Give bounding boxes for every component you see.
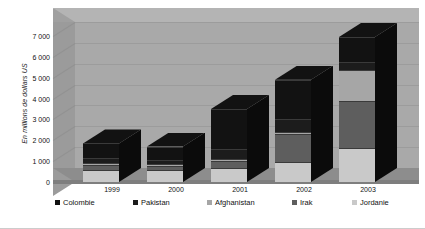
legend-item-jordanie[interactable]: Jordanie: [352, 199, 389, 207]
legend-swatch-icon: [207, 200, 212, 205]
y-axis-tick-0: 0: [14, 179, 50, 186]
legend-swatch-icon: [292, 200, 297, 205]
segment-Jordanie-2001: [211, 168, 247, 182]
segment-Jordanie-1999: [83, 170, 119, 183]
x-axis-tick-1999: 1999: [87, 186, 137, 193]
segment-Colombie-2001: [211, 109, 247, 149]
bar-2003: [339, 37, 375, 182]
bar-front-face: [147, 147, 183, 182]
y-axis-tick-7000: 7 000: [14, 33, 50, 40]
bar-front-face: [83, 143, 119, 182]
segment-Pakistan-1999: [83, 158, 119, 163]
y-axis-tick-5000: 5 000: [14, 74, 50, 81]
bar-side-face: [311, 66, 333, 182]
segment-Afghanistan-2002: [275, 132, 311, 134]
legend-swatch-icon: [133, 200, 138, 205]
segment-Jordanie-2000: [147, 170, 183, 183]
plot-area: [53, 8, 419, 186]
y-axis-tick-4000: 4 000: [14, 95, 50, 102]
x-axis-tick-2001: 2001: [215, 186, 265, 193]
segment-Irak-2000: [147, 166, 183, 169]
segment-Jordanie-2002: [275, 162, 311, 182]
legend-swatch-icon: [55, 200, 60, 205]
segment-Pakistan-2003: [339, 62, 375, 70]
segment-Jordanie-2003: [339, 148, 375, 182]
bar-2001: [211, 109, 247, 182]
bottom-rule: [0, 228, 425, 229]
segment-Irak-2003: [339, 101, 375, 148]
y-axis-tick-2000: 2 000: [14, 137, 50, 144]
bar-1999: [83, 143, 119, 182]
segment-Afghanistan-2000: [147, 164, 183, 166]
segment-Afghanistan-2003: [339, 70, 375, 100]
bar-2000: [147, 147, 183, 182]
legend-label: Afghanistan: [215, 199, 255, 207]
bar-side-face: [247, 95, 269, 182]
legend-swatch-icon: [352, 200, 357, 205]
chart-legend: ColombiePakistanAfghanistanIrakJordanie: [0, 199, 425, 215]
y-axis-tick-1000: 1 000: [14, 158, 50, 165]
legend-item-colombie[interactable]: Colombie: [55, 199, 95, 207]
x-axis-tick-2000: 2000: [151, 186, 201, 193]
segment-Pakistan-2000: [147, 160, 183, 164]
bar-front-face: [211, 109, 247, 182]
legend-label: Jordanie: [360, 199, 389, 207]
legend-item-afghanistan[interactable]: Afghanistan: [207, 199, 255, 207]
bar-2002: [275, 80, 311, 182]
y-axis-tick-labels: 01 0002 0003 0004 0005 0006 0007 000: [14, 0, 50, 229]
segment-Afghanistan-1999: [83, 163, 119, 165]
bar-front-face: [339, 37, 375, 182]
segment-Colombie-2000: [147, 147, 183, 161]
segment-Pakistan-2002: [275, 119, 311, 132]
segment-Irak-1999: [83, 165, 119, 169]
bar-front-face: [275, 80, 311, 182]
segment-Colombie-2003: [339, 37, 375, 62]
y-axis-tick-3000: 3 000: [14, 116, 50, 123]
legend-label: Irak: [300, 199, 313, 207]
y-axis-tick-6000: 6 000: [14, 53, 50, 60]
segment-Colombie-2002: [275, 80, 311, 120]
x-axis-tick-2003: 2003: [343, 186, 393, 193]
x-axis-tick-2002: 2002: [279, 186, 329, 193]
legend-item-irak[interactable]: Irak: [292, 199, 313, 207]
segment-Irak-2001: [211, 161, 247, 168]
segment-Colombie-1999: [83, 143, 119, 158]
legend-label: Pakistan: [141, 199, 170, 207]
legend-label: Colombie: [63, 199, 95, 207]
segment-Irak-2002: [275, 134, 311, 162]
bar-side-face: [375, 23, 397, 182]
stacked-bar-chart: En millions de dollars US 01 0002 0003 0…: [0, 0, 425, 229]
segment-Pakistan-2001: [211, 149, 247, 159]
segment-Afghanistan-2001: [211, 159, 247, 161]
gridline: [75, 22, 419, 23]
legend-item-pakistan[interactable]: Pakistan: [133, 199, 170, 207]
